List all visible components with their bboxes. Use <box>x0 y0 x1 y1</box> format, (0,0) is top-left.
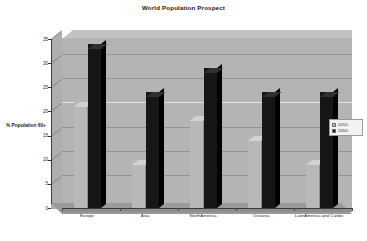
bar-latinamerica-and-caribe-2050[interactable] <box>320 92 333 208</box>
bar-europe-2050[interactable] <box>88 44 101 208</box>
chart-legend[interactable]: 20102050 <box>329 119 363 136</box>
bar-face <box>146 92 159 208</box>
x-tick-mark <box>178 208 179 211</box>
x-axis-label: Oceania <box>232 213 290 218</box>
bar-face <box>132 160 145 208</box>
x-axis-label: LatinAmerica and Caribe <box>290 213 348 218</box>
legend-label: 2050 <box>338 128 348 133</box>
bar-europe-2010[interactable] <box>74 102 87 208</box>
bar-face <box>74 102 87 208</box>
bars-layer <box>0 0 367 241</box>
bar-side <box>159 88 164 208</box>
bar-asia-2050[interactable] <box>146 92 159 208</box>
x-axis-label: Asia <box>116 213 174 218</box>
x-axis-label: NorthAmerica <box>174 213 232 218</box>
bar-face <box>262 92 275 208</box>
bar-latinamerica-and-caribe-2010[interactable] <box>306 160 319 208</box>
bar-face <box>320 92 333 208</box>
bar-oceania-2050[interactable] <box>262 92 275 208</box>
bar-side <box>275 88 280 208</box>
legend-item-2050[interactable]: 2050 <box>332 128 360 134</box>
legend-swatch-icon <box>332 129 336 133</box>
x-tick-mark <box>294 208 295 211</box>
bar-oceania-2010[interactable] <box>248 136 261 208</box>
bar-northamerica-2050[interactable] <box>204 68 217 208</box>
x-tick-mark <box>120 208 121 211</box>
x-axis-label: Europe <box>58 213 116 218</box>
bar-side <box>217 64 222 208</box>
bar-face <box>248 136 261 208</box>
legend-label: 2010 <box>338 122 348 127</box>
bar-asia-2010[interactable] <box>132 160 145 208</box>
chart-container: World Population Prospect 05101520253035… <box>0 0 367 241</box>
bar-face <box>306 160 319 208</box>
x-tick-mark <box>62 208 63 211</box>
x-tick-mark <box>352 208 353 211</box>
bar-northamerica-2010[interactable] <box>190 116 203 208</box>
x-tick-mark <box>236 208 237 211</box>
bar-side <box>101 40 106 208</box>
legend-swatch-icon <box>332 123 336 127</box>
bar-face <box>88 44 101 208</box>
bar-side <box>333 88 338 208</box>
bar-face <box>204 68 217 208</box>
bar-face <box>190 116 203 208</box>
